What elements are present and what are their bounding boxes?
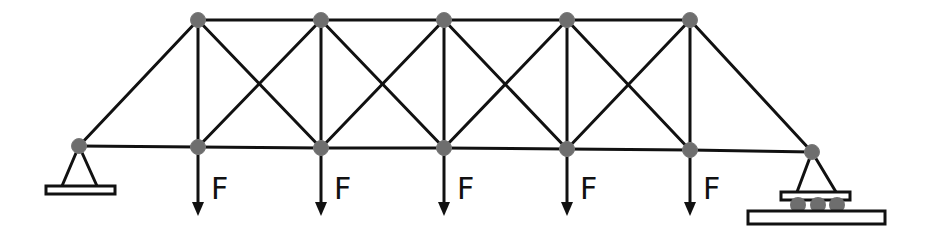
top-joint-node — [191, 13, 206, 28]
end-diagonal-member — [690, 20, 812, 152]
truss-diagram: FFFFF — [0, 0, 933, 235]
arrow-down-icon — [684, 202, 696, 216]
pin-joint-node — [72, 139, 87, 154]
load-label: F — [703, 171, 720, 206]
roller-support-ground — [748, 211, 885, 224]
bottom-chord-member — [567, 149, 690, 150]
load-arrow: F — [684, 150, 720, 216]
arrow-down-icon — [561, 202, 573, 216]
bottom-joint-node — [191, 140, 206, 155]
load-arrow: F — [192, 147, 228, 216]
bottom-joint-node — [437, 141, 452, 156]
truss-canvas: FFFFF — [0, 0, 933, 235]
load-arrow: F — [438, 148, 474, 216]
end-diagonal-member — [79, 20, 198, 146]
top-joint-node — [560, 13, 575, 28]
top-joint-node — [683, 13, 698, 28]
bottom-joint-node — [560, 142, 575, 157]
loads: FFFFF — [192, 147, 720, 216]
load-label: F — [334, 171, 351, 206]
top-joint-node — [314, 13, 329, 28]
bottom-chord-member — [79, 146, 198, 147]
bottom-joint-node — [314, 141, 329, 156]
bottom-chord-member — [198, 147, 321, 148]
roller-joint-node — [805, 145, 820, 160]
truss-members — [79, 20, 812, 152]
load-arrow: F — [315, 148, 351, 216]
load-label: F — [580, 171, 597, 206]
arrow-down-icon — [438, 202, 450, 216]
roller-support-icon — [748, 152, 885, 224]
load-label: F — [457, 171, 474, 206]
pin-support-base — [46, 186, 115, 194]
arrow-down-icon — [315, 202, 327, 216]
top-joint-node — [437, 13, 452, 28]
load-label: F — [211, 171, 228, 206]
bottom-chord-member — [444, 148, 567, 149]
bottom-joint-node — [683, 143, 698, 158]
arrow-down-icon — [192, 202, 204, 216]
bottom-chord-member — [690, 150, 812, 152]
load-arrow: F — [561, 149, 597, 216]
